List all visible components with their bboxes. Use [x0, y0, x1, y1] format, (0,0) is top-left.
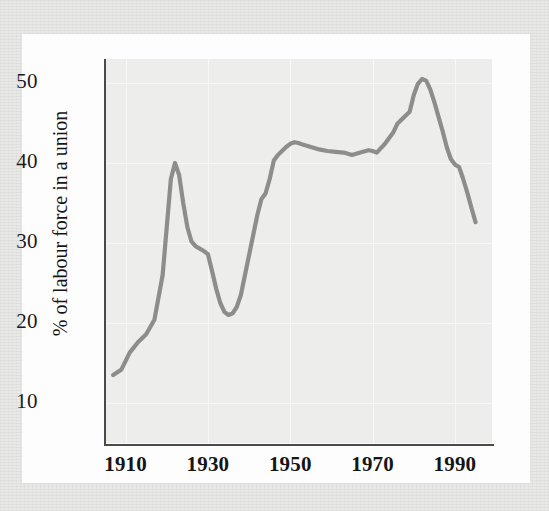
figure-frame: 1020304050 19101930195019701990 % of lab… [0, 0, 549, 511]
y-tick-label: 50 [0, 69, 38, 94]
y-tick-label: 30 [0, 229, 38, 254]
x-tick-label: 1950 [255, 452, 325, 477]
y-tick-label: 40 [0, 149, 38, 174]
y-axis-title: % of labour force in a union [49, 74, 72, 374]
data-series-union-density [105, 59, 492, 443]
x-tick-label: 1930 [173, 452, 243, 477]
line-chart: 1020304050 19101930195019701990 % of lab… [22, 34, 530, 483]
y-tick-label: 20 [0, 309, 38, 334]
paper-sheet: 1020304050 19101930195019701990 % of lab… [22, 34, 530, 483]
plot-panel [105, 59, 492, 443]
x-tick-label: 1970 [338, 452, 408, 477]
y-tick-label: 10 [0, 389, 38, 414]
x-tick-label: 1990 [420, 452, 490, 477]
x-axis-line [104, 444, 494, 446]
y-axis-line [104, 59, 106, 446]
x-tick-label: 1910 [91, 452, 161, 477]
